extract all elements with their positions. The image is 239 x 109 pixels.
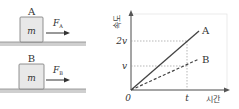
block-b-mass: m bbox=[27, 73, 36, 83]
block-a-mass: m bbox=[27, 26, 36, 36]
velocity-time-graph: A B 2v v 0 t 시간 속도 bbox=[113, 10, 230, 104]
force-a-label: FA bbox=[52, 18, 63, 29]
y-axis-arrow-icon bbox=[129, 10, 134, 16]
force-b-label: FB bbox=[52, 65, 63, 76]
origin-label: 0 bbox=[125, 93, 131, 103]
series-b-line bbox=[131, 59, 199, 90]
force-diagram-canvas: A m FA B m FB A B 2v v bbox=[0, 0, 239, 109]
series-a-line bbox=[131, 31, 199, 90]
y-tick-2v: 2v bbox=[115, 36, 127, 46]
block-b-label: B bbox=[28, 53, 35, 64]
ground-b bbox=[0, 89, 86, 93]
graph-frame bbox=[131, 14, 227, 90]
block-a-system: A m FA bbox=[0, 6, 86, 46]
block-b-system: B m FB bbox=[0, 53, 86, 93]
ground-a bbox=[0, 42, 86, 46]
series-b-label: B bbox=[202, 54, 209, 65]
y-axis-label: 속도 bbox=[113, 15, 122, 29]
y-tick-v: v bbox=[122, 61, 127, 71]
series-a-label: A bbox=[201, 25, 210, 36]
x-tick-t: t bbox=[185, 93, 189, 103]
x-axis-label: 시간 bbox=[206, 94, 221, 104]
block-a-label: A bbox=[27, 6, 36, 17]
